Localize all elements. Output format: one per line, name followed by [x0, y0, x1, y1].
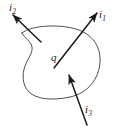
current-subscript-i3: 3 — [88, 109, 92, 118]
figure-canvas — [0, 0, 114, 128]
enclosed-charge-label: q — [51, 52, 57, 63]
current-subscript-i2: 2 — [12, 7, 16, 16]
current-label-i2: i2 — [9, 2, 16, 13]
closed-surface-outline — [22, 26, 100, 99]
current-arrow-i1 — [54, 13, 97, 68]
current-label-i3: i3 — [85, 104, 92, 115]
current-arrow-i2 — [13, 15, 41, 42]
current-arrow-i3 — [69, 75, 87, 125]
current-label-i1: i1 — [99, 9, 106, 20]
current-through-closed-surface-figure: i1 i2 i3 q — [0, 0, 114, 128]
current-subscript-i1: 1 — [102, 14, 106, 23]
